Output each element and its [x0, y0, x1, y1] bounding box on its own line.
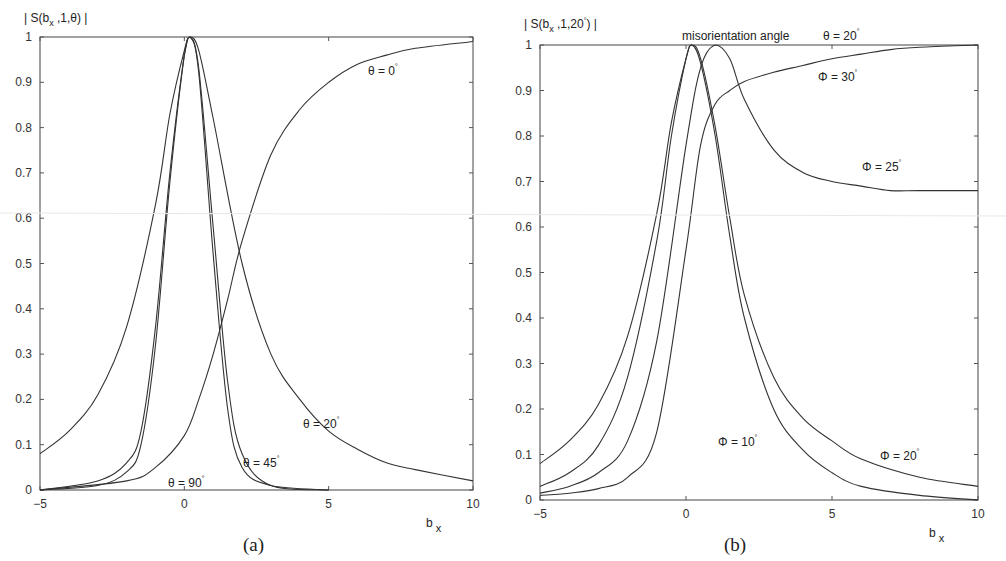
panel-a-x-ticks: −50510 — [33, 37, 480, 511]
x-tick-label: 0 — [181, 497, 188, 511]
figure: 00.10.20.30.40.50.60.70.80.91 −50510 | S… — [0, 0, 1006, 561]
panel-b-title-theta: θ = 20° — [823, 28, 860, 43]
label-phi-25: Φ = 25° — [862, 159, 902, 174]
y-tick-label: 0.9 — [515, 84, 532, 98]
y-tick-label: 0.4 — [515, 311, 532, 325]
x-tick-label: 10 — [466, 497, 480, 511]
panel-b-plot: 00.10.20.30.40.50.60.70.80.91 −50510 | S… — [515, 17, 985, 556]
panel-a-y-axis-label: | S(bx ,1,θ) | — [24, 11, 87, 28]
y-tick-label: 1 — [25, 30, 32, 44]
panel-a-y-ticks: 00.10.20.30.40.50.60.70.80.91 — [15, 30, 473, 497]
scan-artifact-line — [0, 213, 1006, 216]
y-tick-label: 0.1 — [515, 448, 532, 462]
panel-a-axes-frame — [40, 37, 473, 490]
y-tick-label: 0.3 — [515, 357, 532, 371]
curve--30- — [540, 45, 978, 495]
y-tick-label: 0.3 — [15, 347, 32, 361]
panel-b-title-misorientation: misorientation angle — [682, 29, 790, 43]
panel-b-y-axis-label: | S(bx ,1,20°) | — [524, 17, 597, 34]
y-tick-label: 0.7 — [15, 166, 32, 180]
y-tick-label: 0 — [525, 493, 532, 507]
label-theta-0: θ = 0° — [368, 63, 398, 78]
x-tick-label: −5 — [533, 507, 547, 521]
x-tick-label: 5 — [829, 507, 836, 521]
y-tick-label: 0.7 — [515, 175, 532, 189]
curve--25- — [540, 45, 978, 493]
x-tick-label: 0 — [683, 507, 690, 521]
curve--0- — [40, 42, 473, 491]
y-tick-label: 0.2 — [15, 392, 32, 406]
y-tick-label: 0.5 — [515, 266, 532, 280]
curve--90- — [40, 37, 329, 490]
y-tick-label: 0.4 — [15, 302, 32, 316]
label-phi-30: Φ = 30° — [818, 69, 858, 84]
y-tick-label: 0.8 — [515, 129, 532, 143]
panel-b-x-axis-label: bx — [929, 526, 945, 544]
label-theta-90: θ = 90° — [168, 475, 205, 490]
x-tick-label: −5 — [33, 497, 47, 511]
y-tick-label: 0.6 — [515, 220, 532, 234]
label-phi-10: Φ = 10° — [718, 434, 758, 449]
curve--20- — [540, 45, 978, 486]
panel-a-caption: (a) — [243, 534, 264, 556]
label-theta-45: θ = 45° — [243, 455, 280, 470]
y-tick-label: 1 — [525, 38, 532, 52]
panel-b-caption: (b) — [724, 534, 746, 556]
x-tick-label: 5 — [325, 497, 332, 511]
y-tick-label: 0.9 — [15, 75, 32, 89]
y-tick-label: 0.5 — [15, 257, 32, 271]
panel-b-curves — [540, 45, 978, 500]
x-tick-label: 10 — [971, 507, 985, 521]
panel-a-plot: 00.10.20.30.40.50.60.70.80.91 −50510 | S… — [15, 11, 480, 556]
curve--45- — [40, 37, 329, 490]
label-theta-20: θ = 20° — [303, 416, 340, 431]
panel-a-curves — [40, 37, 473, 490]
y-tick-label: 0.1 — [15, 438, 32, 452]
y-tick-label: 0 — [25, 483, 32, 497]
y-tick-label: 0.2 — [515, 402, 532, 416]
curve--20- — [40, 37, 473, 481]
y-tick-label: 0.8 — [15, 121, 32, 135]
label-phi-20: Φ = 20° — [880, 448, 920, 463]
panel-a-x-axis-label: bx — [426, 516, 442, 534]
